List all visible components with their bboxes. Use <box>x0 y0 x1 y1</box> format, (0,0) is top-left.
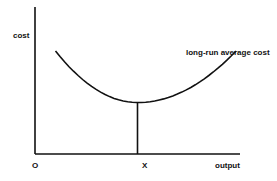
lrac-diagram: cost output O X long-run average cost <box>0 0 277 181</box>
x-axis-label: output <box>215 161 240 170</box>
x-marker-label: X <box>142 161 148 170</box>
y-axis-label: cost <box>13 31 30 40</box>
curve-label: long-run average cost <box>186 48 270 57</box>
origin-label: O <box>32 161 38 170</box>
long-run-average-cost-curve <box>56 51 236 102</box>
